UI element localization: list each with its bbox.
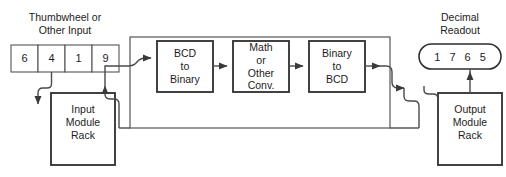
thumbwheel-digit-3: 9 <box>92 52 119 64</box>
thumbwheel-digit-1: 4 <box>38 52 65 64</box>
block-label-bcd-to-binary: BCD to Binary <box>157 47 213 85</box>
thumbwheel-digit-2: 1 <box>65 52 92 64</box>
wire-output-rack-return <box>424 86 438 104</box>
block-label-math-or-other-conv: Math or Other Conv. <box>233 41 289 92</box>
wire-processor-to-output-rack <box>380 66 404 88</box>
readout-digit-0: 1 <box>434 51 440 63</box>
wire-into-bcd-to-binary <box>122 58 151 66</box>
input-module-rack-label: Input Module Rack <box>51 103 115 141</box>
decimal-readout-digits: 1 7 6 5 <box>419 44 501 69</box>
readout-digit-3: 5 <box>480 51 486 63</box>
output-module-rack-label: Output Module Rack <box>438 103 502 141</box>
thumbwheel-digit-0: 6 <box>11 52 38 64</box>
block-label-binary-to-bcd: Binary to BCD <box>309 47 365 85</box>
block-diagram: Thumbwheel or Other Input 6 4 1 9 Input … <box>0 0 506 177</box>
thumbwheel-caption: Thumbwheel or Other Input <box>10 11 120 37</box>
wire-thumbwheel-to-input-rack <box>38 72 52 104</box>
wire-into-output-rack <box>404 88 419 128</box>
readout-digit-2: 6 <box>465 51 471 63</box>
readout-digit-1: 7 <box>449 51 455 63</box>
decimal-readout-caption: Decimal Readout <box>420 11 500 37</box>
